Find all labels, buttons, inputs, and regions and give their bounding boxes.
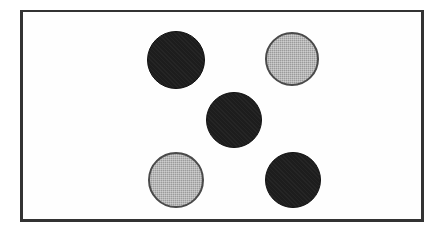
figure-canvas: Black circle, upper left Gray circle, up… — [0, 0, 444, 234]
stimulus-frame: Black circle, upper left Gray circle, up… — [20, 10, 424, 222]
circle-top-left: Black circle, upper left — [147, 31, 205, 89]
circle-center-label: Black circle, center — [207, 93, 208, 94]
circle-top-right: Gray circle, upper right — [265, 32, 319, 86]
circle-top-left-label: Black circle, upper left — [148, 32, 149, 33]
circle-bottom-right: Black circle, lower right — [265, 152, 321, 208]
circle-bottom-right-label: Black circle, lower right — [266, 153, 267, 154]
circle-bottom-left-label: Gray circle, lower left — [150, 154, 151, 155]
stimulus-panel: Black circle, upper left Gray circle, up… — [23, 12, 421, 219]
circle-top-right-label: Gray circle, upper right — [267, 34, 268, 35]
circle-center: Black circle, center — [206, 92, 262, 148]
circle-bottom-left: Gray circle, lower left — [148, 152, 204, 208]
